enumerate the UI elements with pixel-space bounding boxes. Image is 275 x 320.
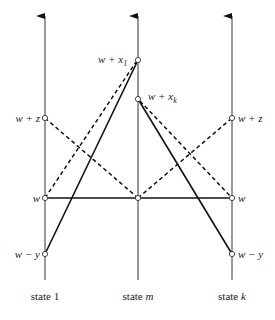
point-state1-w [42,195,47,200]
point-statek-w [229,195,234,200]
axis-label-state-1: state 1 [31,290,59,302]
dashed-line-w-to-w-plus-z [138,118,232,198]
dashed-line-w-to-w-plus-x1 [45,62,136,198]
point-statem-w-plus-xk [135,96,140,101]
label-statek-w-plus-z: w + z [238,112,263,124]
label-statek-w-minus-y: w − y [238,248,263,260]
label-statek-w: w [238,192,246,204]
point-statek-w-minus-y [229,251,234,256]
label-statem-w-plus-xk: w + xk [148,90,177,105]
solid-line-w-plus-xk-to-w-minus-y [138,99,232,254]
axis-label-state-m: state m [123,290,154,302]
point-statem-w-plus-x1 [135,57,140,62]
point-state1-w-plus-z [42,115,47,120]
point-statek-w-plus-z [229,115,234,120]
point-statem-w [135,195,140,200]
dashed-line-w-plus-xk-to-w [140,101,232,198]
label-state1-w-minus-y: w − y [15,248,40,260]
label-statem-w-plus-x1: w + x1 [98,53,127,68]
label-state1-w: w [33,192,41,204]
state-payoff-diagram: w + z w w − y w + x1 w + xk w + z w w − … [0,0,275,320]
point-state1-w-minus-y [42,251,47,256]
label-state1-w-plus-z: w + z [15,112,40,124]
solid-line-w-minus-y-to-w-plus-x1 [45,60,138,254]
axis-label-state-k: state k [218,290,247,302]
